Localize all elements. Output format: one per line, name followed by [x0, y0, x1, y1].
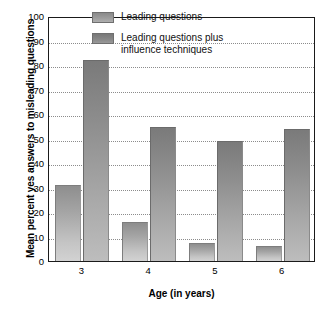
y-axis-tick-label: 80	[22, 61, 44, 71]
legend-swatch-icon	[92, 12, 114, 23]
y-axis-tick-label: 70	[22, 86, 44, 96]
x-axis-tick-labels: 3456	[48, 266, 315, 280]
bar	[83, 60, 109, 261]
y-axis-tick-label: 0	[22, 257, 44, 267]
legend-swatch-icon	[92, 33, 114, 44]
y-axis-tick-label: 60	[22, 110, 44, 120]
x-axis-tick-label: 6	[262, 266, 302, 276]
y-axis-tick-label: 90	[22, 37, 44, 47]
y-axis-tick-label: 10	[22, 233, 44, 243]
y-axis-tick-label: 30	[22, 184, 44, 194]
x-axis-title: Age (in years)	[48, 288, 315, 299]
legend-entry: Leading questions plus influence techniq…	[92, 32, 264, 55]
y-axis-tick-label: 40	[22, 159, 44, 169]
x-axis-tick-label: 5	[195, 266, 235, 276]
bar	[256, 246, 282, 261]
legend-label: Leading questions	[121, 11, 202, 23]
bar	[122, 222, 148, 261]
y-axis-tick-label: 50	[22, 135, 44, 145]
bar	[189, 243, 215, 261]
bar	[284, 129, 310, 261]
legend: Leading questions Leading questions plus…	[92, 11, 264, 64]
legend-label: Leading questions plus influence techniq…	[121, 32, 223, 55]
y-axis-tick-label: 20	[22, 208, 44, 218]
bar	[150, 127, 176, 261]
bar	[217, 141, 243, 261]
x-axis-tick-label: 3	[61, 266, 101, 276]
legend-entry: Leading questions	[92, 11, 264, 23]
y-axis-tick-labels: 0102030405060708090100	[22, 17, 44, 262]
y-axis-tick-label: 100	[22, 12, 44, 22]
bar-chart: Mean percent yes answers to misleading q…	[0, 0, 330, 309]
bar	[55, 185, 81, 261]
x-axis-tick-label: 4	[128, 266, 168, 276]
